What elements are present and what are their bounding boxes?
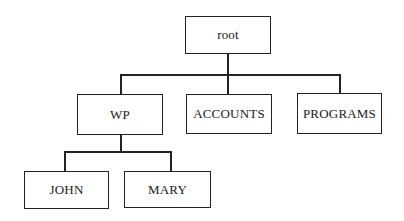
edge-to-accounts <box>227 74 229 94</box>
node-accounts: ACCOUNTS <box>186 94 272 134</box>
node-programs: PROGRAMS <box>297 93 382 134</box>
edge-root-stem <box>227 54 229 75</box>
edge-to-john <box>64 151 66 171</box>
node-root: root <box>185 16 271 54</box>
edge-to-mary <box>170 151 172 171</box>
edge-root-bar <box>120 74 340 76</box>
edge-to-wp <box>120 74 122 94</box>
edge-wp-stem <box>120 135 122 152</box>
node-john: JOHN <box>24 171 109 209</box>
edge-to-programs <box>339 74 341 94</box>
node-mary: MARY <box>124 171 211 208</box>
node-wp: WP <box>77 94 163 135</box>
edge-wp-bar <box>64 151 171 153</box>
